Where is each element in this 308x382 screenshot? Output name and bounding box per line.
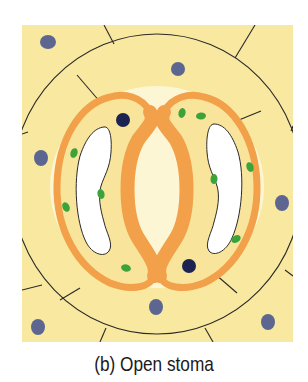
figure-caption: (b) Open stoma <box>28 352 281 376</box>
guard-cell-nucleus <box>182 259 196 273</box>
epidermal-nucleus <box>40 35 56 49</box>
epidermal-nucleus <box>34 150 48 166</box>
stoma-diagram <box>0 0 308 382</box>
epidermal-nucleus <box>149 299 163 315</box>
epidermal-nucleus <box>275 195 289 211</box>
guard-cell-nucleus <box>116 113 130 127</box>
open-stoma-figure: (b) Open stoma <box>0 0 308 382</box>
epidermal-nucleus <box>171 62 185 76</box>
epidermal-nucleus <box>261 314 275 330</box>
epidermal-nucleus <box>31 319 45 335</box>
